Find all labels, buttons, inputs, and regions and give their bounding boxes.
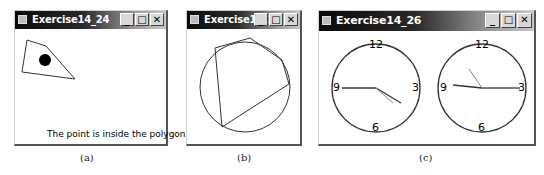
- caption-c: (c): [419, 152, 432, 163]
- clock-2-number-3: 3: [518, 81, 525, 94]
- clock-1-number-12: 12: [369, 38, 383, 51]
- hour-hand: [453, 85, 482, 88]
- caption-a: (a): [80, 152, 94, 163]
- clock-2-number-6: 6: [478, 121, 485, 134]
- minute-hand: [376, 88, 401, 103]
- second-hand: [376, 88, 393, 103]
- drawing-layer: [0, 0, 544, 175]
- clock-1: [332, 44, 420, 132]
- caption-b: (b): [237, 152, 251, 163]
- polygon-b: [215, 38, 289, 127]
- clock-2: [438, 44, 526, 132]
- second-hand: [469, 69, 482, 88]
- clock-1-number-6: 6: [372, 121, 379, 134]
- clock-2-number-9: 9: [440, 81, 447, 94]
- clock-1-number-9: 9: [333, 81, 340, 94]
- test-point: [39, 54, 51, 66]
- clock-2-number-12: 12: [475, 38, 489, 51]
- circle-b: [200, 42, 290, 132]
- clock-1-number-3: 3: [412, 81, 419, 94]
